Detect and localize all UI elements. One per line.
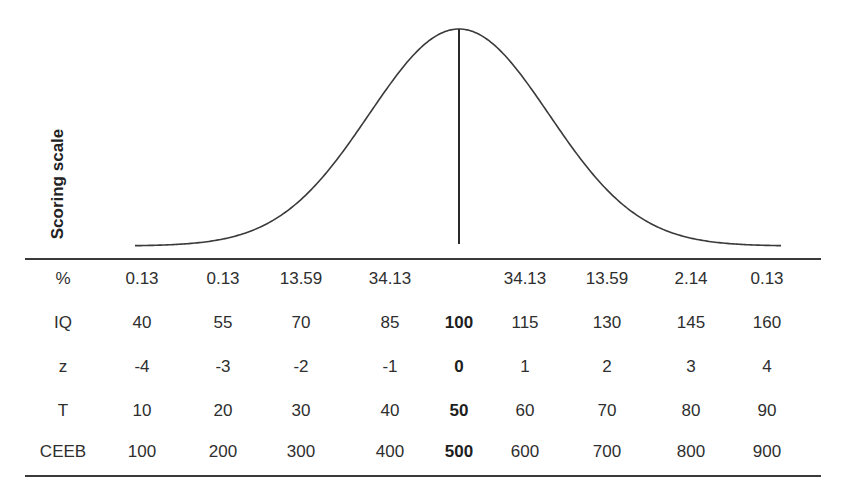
bell-curve-plot bbox=[0, 0, 843, 491]
bottom-rule bbox=[25, 475, 821, 477]
table-cell: 85 bbox=[381, 313, 400, 333]
table-cell: 70 bbox=[292, 313, 311, 333]
table-cell: 40 bbox=[381, 401, 400, 421]
row-label: % bbox=[55, 269, 70, 289]
table-cell: -3 bbox=[215, 357, 230, 377]
table-cell: 90 bbox=[758, 401, 777, 421]
table-cell: 13.59 bbox=[586, 269, 629, 289]
table-cell: 70 bbox=[598, 401, 617, 421]
table-cell: -2 bbox=[293, 357, 308, 377]
table-cell: 145 bbox=[677, 313, 705, 333]
top-rule bbox=[25, 258, 821, 260]
table-cell: 0.13 bbox=[750, 269, 783, 289]
table-cell: 800 bbox=[677, 442, 705, 462]
row-label: T bbox=[58, 401, 68, 421]
table-cell: 2.14 bbox=[674, 269, 707, 289]
table-cell: 34.13 bbox=[504, 269, 547, 289]
y-axis-label: Scoring scale bbox=[48, 129, 68, 240]
table-cell: 0 bbox=[454, 357, 463, 377]
table-cell: 160 bbox=[753, 313, 781, 333]
table-cell: 2 bbox=[602, 357, 611, 377]
table-cell: 4 bbox=[762, 357, 771, 377]
table-cell: 900 bbox=[753, 442, 781, 462]
bell-curve-figure: Scoring scale %0.130.1313.5934.1334.1313… bbox=[0, 0, 843, 491]
table-cell: 300 bbox=[287, 442, 315, 462]
table-cell: 34.13 bbox=[369, 269, 412, 289]
table-cell: 55 bbox=[214, 313, 233, 333]
table-cell: 10 bbox=[133, 401, 152, 421]
table-cell: 130 bbox=[593, 313, 621, 333]
table-cell: 200 bbox=[209, 442, 237, 462]
table-cell: 1 bbox=[520, 357, 529, 377]
table-cell: 400 bbox=[376, 442, 404, 462]
row-label: IQ bbox=[54, 313, 72, 333]
table-cell: 600 bbox=[511, 442, 539, 462]
table-cell: 0.13 bbox=[125, 269, 158, 289]
row-label: z bbox=[59, 357, 68, 377]
table-cell: 3 bbox=[686, 357, 695, 377]
table-cell: 30 bbox=[292, 401, 311, 421]
table-cell: 20 bbox=[214, 401, 233, 421]
table-cell: 40 bbox=[133, 313, 152, 333]
table-cell: 13.59 bbox=[280, 269, 323, 289]
table-cell: 500 bbox=[445, 442, 473, 462]
table-cell: 115 bbox=[511, 313, 538, 333]
table-cell: 50 bbox=[450, 401, 469, 421]
table-cell: -1 bbox=[382, 357, 397, 377]
table-cell: 700 bbox=[593, 442, 621, 462]
table-cell: 100 bbox=[128, 442, 156, 462]
row-label: CEEB bbox=[40, 442, 86, 462]
table-cell: 100 bbox=[445, 313, 473, 333]
table-cell: 0.13 bbox=[206, 269, 239, 289]
table-cell: 60 bbox=[516, 401, 535, 421]
table-cell: -4 bbox=[134, 357, 149, 377]
table-cell: 80 bbox=[682, 401, 701, 421]
